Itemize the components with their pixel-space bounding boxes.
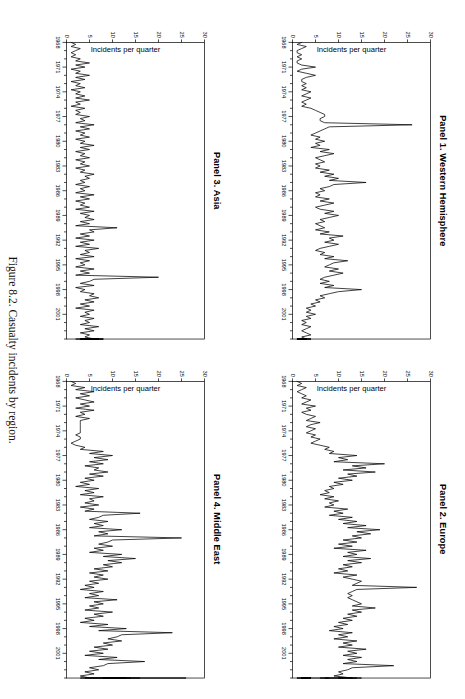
svg-text:1989: 1989 [280,547,286,559]
svg-text:5: 5 [86,34,92,37]
svg-text:1980: 1980 [55,135,61,147]
svg-text:1974: 1974 [55,85,61,97]
svg-text:1971: 1971 [280,60,286,72]
svg-text:1986: 1986 [55,523,61,535]
svg-text:1974: 1974 [280,85,286,97]
svg-text:2001: 2001 [55,308,61,320]
panel-3-chart: 0510152025301968197119741977198019831986… [41,16,211,345]
svg-text:1968: 1968 [280,374,286,386]
panel-1-plot: Incidents per quarter 051015202530196819… [266,16,436,345]
svg-text:10: 10 [109,31,115,37]
panel-western-hemisphere: Panel 1. Western Hemisphere Incidents pe… [226,12,452,351]
svg-text:10: 10 [335,31,341,37]
svg-text:1995: 1995 [55,597,61,609]
svg-text:30: 30 [427,369,433,375]
svg-text:20: 20 [155,31,161,37]
svg-text:1989: 1989 [55,547,61,559]
svg-text:1986: 1986 [280,184,286,196]
svg-text:1977: 1977 [55,448,61,460]
svg-text:10: 10 [335,369,341,375]
panel-3-plot: Incidents per quarter 051015202530196819… [41,16,211,345]
svg-text:0: 0 [289,373,295,376]
svg-text:1992: 1992 [280,572,286,584]
svg-text:20: 20 [381,31,387,37]
panel-4-ylabel: Incidents per quarter [91,383,161,392]
svg-text:1977: 1977 [280,110,286,122]
svg-text:1992: 1992 [55,233,61,245]
svg-text:1989: 1989 [55,209,61,221]
panel-4-title: Panel 4. Middle East [212,355,222,684]
svg-text:2001: 2001 [55,646,61,658]
svg-text:1980: 1980 [280,473,286,485]
svg-text:2001: 2001 [280,308,286,320]
svg-text:15: 15 [358,31,364,37]
panel-4-plot: Incidents per quarter 051015202530196819… [41,355,211,684]
svg-text:1971: 1971 [280,399,286,411]
svg-text:1977: 1977 [280,448,286,460]
svg-text:1980: 1980 [55,473,61,485]
svg-text:1983: 1983 [280,159,286,171]
svg-text:30: 30 [201,369,207,375]
svg-text:1998: 1998 [280,283,286,295]
svg-text:30: 30 [427,31,433,37]
svg-text:20: 20 [155,369,161,375]
svg-text:1992: 1992 [55,572,61,584]
svg-text:25: 25 [404,369,410,375]
svg-text:1986: 1986 [280,523,286,535]
panel-asia: Panel 3. Asia Incidents per quarter 0510… [0,12,226,351]
panel-middle-east: Panel 4. Middle East Incidents per quart… [0,351,226,690]
svg-text:1983: 1983 [280,498,286,510]
svg-text:5: 5 [312,373,318,376]
svg-text:1995: 1995 [280,258,286,270]
svg-text:0: 0 [63,373,69,376]
svg-text:10: 10 [109,369,115,375]
svg-text:1998: 1998 [55,621,61,633]
svg-text:1968: 1968 [55,374,61,386]
svg-text:1974: 1974 [280,424,286,436]
svg-text:1971: 1971 [55,60,61,72]
svg-text:1998: 1998 [55,283,61,295]
panel-3-title: Panel 3. Asia [212,16,222,345]
panel-1-title: Panel 1. Western Hemisphere [437,16,447,345]
svg-text:1983: 1983 [55,159,61,171]
svg-text:25: 25 [178,31,184,37]
svg-text:1989: 1989 [280,209,286,221]
panel-2-plot: Incidents per quarter 051015202530196819… [266,355,436,684]
panel-2-title: Panel 2. Europe [437,355,447,684]
svg-text:15: 15 [132,369,138,375]
svg-text:1992: 1992 [280,233,286,245]
svg-text:1995: 1995 [55,258,61,270]
svg-text:5: 5 [86,373,92,376]
svg-text:5: 5 [312,34,318,37]
svg-text:1977: 1977 [55,110,61,122]
book-page: Panel 1. Western Hemisphere Incidents pe… [0,0,465,699]
figure-caption: Figure 8.2. Casualty incidents by region… [6,0,18,699]
svg-text:1986: 1986 [55,184,61,196]
svg-text:1983: 1983 [55,498,61,510]
svg-text:1995: 1995 [280,597,286,609]
svg-text:0: 0 [63,34,69,37]
svg-text:20: 20 [381,369,387,375]
page-content-rotated: Panel 1. Western Hemisphere Incidents pe… [0,0,465,699]
svg-text:15: 15 [358,369,364,375]
panel-1-chart: 0510152025301968197119741977198019831986… [266,16,436,345]
panel-4-chart: 0510152025301968197119741977198019831986… [41,355,211,684]
svg-text:0: 0 [289,34,295,37]
svg-text:1968: 1968 [280,36,286,48]
svg-text:1980: 1980 [280,135,286,147]
svg-text:15: 15 [132,31,138,37]
panel-2-ylabel: Incidents per quarter [316,383,386,392]
svg-text:1998: 1998 [280,621,286,633]
svg-text:1971: 1971 [55,399,61,411]
svg-text:25: 25 [404,31,410,37]
svg-text:1974: 1974 [55,424,61,436]
panel-3-ylabel: Incidents per quarter [91,44,161,53]
panel-1-ylabel: Incidents per quarter [316,44,386,53]
svg-text:2001: 2001 [280,646,286,658]
panel-grid: Panel 1. Western Hemisphere Incidents pe… [0,0,465,699]
svg-text:30: 30 [201,31,207,37]
svg-text:25: 25 [178,369,184,375]
panel-2-chart: 0510152025301968197119741977198019831986… [266,355,436,684]
panel-europe: Panel 2. Europe Incidents per quarter 05… [226,351,452,690]
svg-text:1968: 1968 [55,36,61,48]
